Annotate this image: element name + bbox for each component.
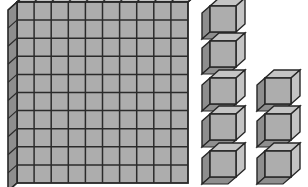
unit-cube-8 (257, 143, 300, 184)
unit-cube-front-face (210, 41, 236, 67)
unit-cube-front-face (210, 151, 236, 177)
unit-cube-4 (202, 106, 245, 147)
unit-cube-front-face (265, 114, 291, 140)
unit-cube-front-face (265, 78, 291, 104)
unit-cube-front-face (210, 114, 236, 140)
unit-cube-front-face (210, 78, 236, 104)
unit-cube-3 (202, 70, 245, 111)
blocks-illustration (0, 0, 308, 187)
unit-cube-5 (202, 143, 245, 184)
unit-cube-front-face (210, 6, 236, 32)
unit-cube-right-face (236, 0, 245, 32)
unit-cube-front-face (265, 151, 291, 177)
unit-cube-7 (257, 106, 300, 147)
unit-cube-6 (257, 70, 300, 111)
base-ten-blocks-canvas (0, 0, 308, 187)
